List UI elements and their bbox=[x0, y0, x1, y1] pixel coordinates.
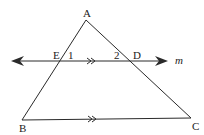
side-bc bbox=[22, 118, 191, 120]
label-c: C bbox=[192, 120, 199, 132]
diagram-canvas: A B C E D 1 2 m bbox=[0, 0, 204, 135]
label-angle-2: 2 bbox=[114, 49, 120, 61]
label-a: A bbox=[83, 7, 91, 19]
triangle-figure: A B C E D 1 2 m bbox=[0, 0, 204, 135]
side-ac bbox=[86, 20, 191, 118]
label-angle-1: 1 bbox=[68, 49, 74, 61]
label-b: B bbox=[19, 122, 26, 134]
side-ab bbox=[22, 20, 86, 120]
label-e: E bbox=[53, 49, 60, 61]
label-line-m: m bbox=[175, 54, 183, 66]
label-d: D bbox=[133, 49, 141, 61]
